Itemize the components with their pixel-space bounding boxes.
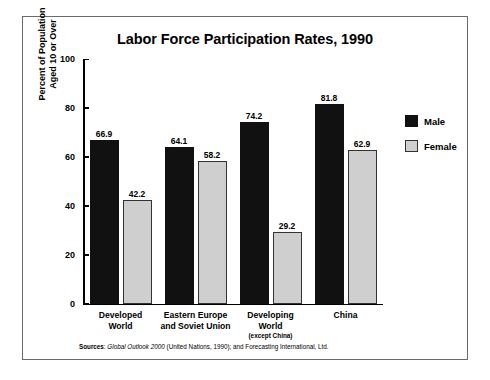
category-line-2: and Soviet Union [160,321,230,331]
category-line-2: World [108,321,132,331]
x-axis-line [83,304,383,306]
y-axis-tick-label: 60 [49,152,75,162]
y-axis-tick-label: 20 [49,250,75,260]
chart-figure: Labor Force Participation Rates, 1990 Pe… [22,16,468,360]
legend-label-male: Male [424,116,445,127]
bar-value-label: 42.2 [129,189,146,199]
y-axis-tick-label: 100 [49,54,75,64]
source-note: Sources: Global Outlook 2000 (United Nat… [79,343,449,351]
plot-area: 020406080100 66.964.174.281.842.258.229.… [83,59,383,305]
bar-male: 74.2 [240,122,269,303]
bar-value-label: 62.9 [354,139,371,149]
bar-value-label: 81.8 [321,93,338,103]
legend-swatch-male-icon [405,115,418,127]
bar-female: 62.9 [348,150,377,304]
category-line-1: China [334,310,358,320]
bar-value-label: 74.2 [246,111,263,121]
bar-male: 64.1 [165,147,194,304]
bar-value-label: 29.2 [279,221,296,231]
legend-swatch-female-icon [405,140,418,152]
bar-male: 66.9 [90,140,119,304]
bar-female: 29.2 [273,232,302,303]
bar-value-label: 58.2 [204,150,221,160]
y-axis-label-wrapper: Percent of Population Aged 10 or Over [39,59,40,305]
chart-title: Labor Force Participation Rates, 1990 [23,31,467,47]
y-axis-tick-label: 0 [49,299,75,309]
legend-item-male: Male [405,115,475,127]
bar-female: 42.2 [123,200,152,303]
legend-item-female: Female [405,140,475,152]
y-axis-tick-label: 40 [49,201,75,211]
x-axis-category-label: China [300,310,391,321]
category-line-1: Eastern Europe [164,310,228,320]
source-title: Global Outlook 2000 [107,343,164,350]
bar-value-label: 64.1 [171,136,188,146]
bar-series-container: 66.964.174.281.842.258.229.262.9 [83,59,383,304]
chart-legend: Male Female [405,115,475,165]
category-line-1: Developed [99,310,142,320]
y-axis-tick-label: 80 [49,103,75,113]
legend-label-female: Female [424,141,457,152]
source-label: Sources [79,343,104,350]
source-rest: (United Nations, 1990); and Forecasting … [165,343,329,350]
category-note: (except China) [225,331,316,340]
category-line-1: Developing [247,310,293,320]
bar-male: 81.8 [315,104,344,304]
bar-female: 58.2 [198,161,227,303]
bar-value-label: 66.9 [96,129,113,139]
category-line-2: World [258,321,282,331]
